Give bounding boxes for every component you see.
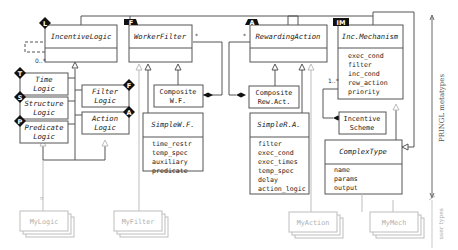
svg-text:MyMech: MyMech (382, 219, 407, 227)
svg-text:1..*: 1..* (328, 77, 339, 84)
svg-text:Incentive: Incentive (344, 115, 381, 123)
svg-text:Time: Time (35, 75, 52, 84)
svg-text:IncentiveLogic: IncentiveLogic (51, 32, 112, 41)
uml-class-diagram: π IncentiveLogic L 0..* WorkerFilter F *… (0, 0, 458, 250)
user-type-my-logic[interactable]: MyLogic (20, 211, 74, 237)
svg-text:Inc.Mechanism: Inc.Mechanism (342, 32, 399, 41)
svg-text:W.F.: W.F. (170, 97, 186, 105)
svg-text:action_logic: action_logic (258, 185, 306, 193)
svg-text:S: S (18, 94, 23, 102)
svg-text:predicate: predicate (152, 167, 188, 175)
svg-text:A: A (126, 109, 131, 117)
svg-text:MyLogic: MyLogic (30, 218, 59, 226)
class-rewarding-action[interactable]: RewardingAction A * (243, 19, 327, 63)
svg-text:Scheme: Scheme (350, 124, 375, 132)
svg-text:RewardingAction: RewardingAction (256, 32, 321, 41)
svg-text:*: * (195, 32, 198, 39)
svg-text:F: F (127, 82, 131, 90)
svg-text:auxiliary: auxiliary (152, 158, 188, 166)
svg-text:temp_spec: temp_spec (258, 167, 294, 175)
svg-text:Predicate: Predicate (25, 123, 64, 132)
svg-text:Logic: Logic (94, 123, 116, 132)
svg-text:time_restr: time_restr (152, 140, 192, 148)
svg-text:Composite: Composite (256, 89, 293, 97)
user-type-my-mech[interactable]: MyMech (370, 212, 424, 238)
svg-text:MyFilter: MyFilter (122, 218, 155, 226)
svg-text:rew_action: rew_action (348, 79, 388, 87)
svg-text:Composite: Composite (160, 88, 197, 96)
svg-text:Logic: Logic (33, 132, 55, 141)
svg-text:params: params (334, 175, 358, 183)
svg-text:Logic: Logic (33, 108, 55, 117)
svg-text:A: A (249, 19, 254, 27)
svg-text:π: π (40, 195, 43, 201)
user-types-label: user types (437, 208, 445, 240)
class-composite-wf[interactable]: Composite W.F. (154, 85, 203, 107)
svg-text:delay: delay (258, 176, 278, 184)
class-time-logic[interactable]: Time Logic T (14, 67, 68, 95)
svg-text:name: name (334, 166, 350, 174)
svg-text:WorkerFilter: WorkerFilter (134, 32, 187, 41)
svg-text:output: output (334, 184, 358, 192)
side-scale: PRINGL metatypes user types (429, 15, 446, 248)
svg-text:P: P (18, 118, 23, 126)
svg-text:Logic: Logic (33, 84, 55, 93)
svg-text:Action: Action (91, 114, 118, 123)
class-simple-ra[interactable]: SimpleR.A. filter exec_cond exec_times t… (250, 113, 309, 194)
svg-text:ComplexType: ComplexType (339, 147, 387, 156)
svg-text:filter: filter (348, 61, 372, 69)
svg-text:exec_times: exec_times (258, 158, 298, 166)
svg-text:MyAction: MyAction (297, 219, 330, 227)
class-simple-wf[interactable]: SimpleW.F. time_restr temp_spec auxiliar… (143, 113, 203, 175)
svg-text:exec_cond: exec_cond (258, 149, 294, 157)
class-filter-logic[interactable]: Filter Logic F (82, 79, 135, 107)
svg-text:Filter: Filter (92, 87, 119, 96)
svg-text:F: F (129, 19, 133, 27)
svg-text:SimpleW.F.: SimpleW.F. (151, 120, 194, 129)
svg-text:T: T (18, 70, 23, 78)
svg-text:*: * (243, 32, 246, 39)
svg-text:exec_cond: exec_cond (348, 52, 384, 60)
user-type-my-filter[interactable]: MyFilter (114, 211, 168, 237)
svg-text:0..*: 0..* (35, 57, 46, 64)
class-worker-filter[interactable]: WorkerFilter F * (124, 19, 198, 63)
class-incentive-scheme[interactable]: Incentive Scheme (339, 112, 386, 134)
svg-text:IM: IM (337, 19, 346, 27)
user-type-my-action[interactable]: MyAction (289, 212, 343, 238)
svg-text:SimpleR.A.: SimpleR.A. (257, 120, 300, 129)
class-composite-ra[interactable]: Composite Rew.Act. (249, 86, 299, 108)
svg-text:temp_spec: temp_spec (152, 149, 188, 157)
class-action-logic[interactable]: Action Logic A (82, 106, 135, 134)
svg-text:inc_cond: inc_cond (348, 70, 380, 78)
svg-text:Rew.Act.: Rew.Act. (258, 98, 291, 106)
class-incentive-logic[interactable]: IncentiveLogic L 0..* (35, 17, 117, 64)
svg-text:Structure: Structure (25, 99, 64, 108)
svg-text:Logic: Logic (94, 96, 116, 105)
class-inc-mechanism[interactable]: Inc.Mechanism IM exec_cond filter inc_co… (328, 18, 403, 99)
class-complex-type[interactable]: ComplexType name params output (325, 140, 408, 194)
svg-text:filter: filter (258, 140, 282, 148)
metatypes-label: PRINGL metatypes (438, 74, 446, 142)
svg-text:priority: priority (348, 88, 380, 96)
svg-text:L: L (43, 20, 47, 28)
